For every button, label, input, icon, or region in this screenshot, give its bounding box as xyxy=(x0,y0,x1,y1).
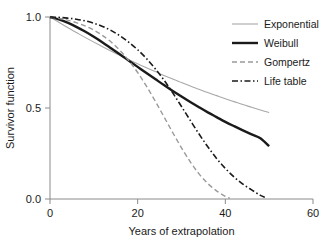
legend-label-life-table: Life table xyxy=(264,75,307,87)
x-tick-label: 40 xyxy=(219,207,231,219)
survivor-function-chart: 0204060 0.00.51.0 Years of extrapolation… xyxy=(0,0,333,240)
series-line-gompertz xyxy=(50,17,230,198)
y-tick-label: 1.0 xyxy=(26,11,41,23)
y-axis-title: Survivor function xyxy=(4,67,16,149)
chart-figure: 0204060 0.00.51.0 Years of extrapolation… xyxy=(0,0,333,240)
legend-label-weibull: Weibull xyxy=(264,37,298,49)
legend-label-exponential: Exponential xyxy=(264,18,319,30)
legend-label-gompertz: Gompertz xyxy=(264,56,310,68)
chart-legend: ExponentialWeibullGompertzLife table xyxy=(232,18,319,87)
x-axis-title: Years of extrapolation xyxy=(129,225,235,237)
x-tick-label: 20 xyxy=(132,207,144,219)
x-axis-ticks: 0204060 xyxy=(47,199,319,219)
y-tick-label: 0.5 xyxy=(26,102,41,114)
x-tick-label: 60 xyxy=(307,207,319,219)
x-tick-label: 0 xyxy=(47,207,53,219)
y-tick-label: 0.0 xyxy=(26,193,41,205)
y-axis-ticks: 0.00.51.0 xyxy=(26,11,50,205)
